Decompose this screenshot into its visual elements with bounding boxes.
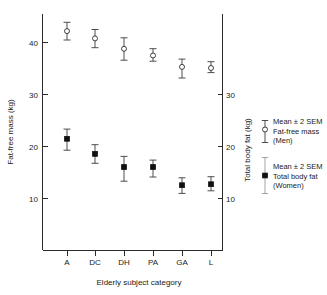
legend-label-2-line3: (Women): [273, 181, 304, 190]
data-point-A: [64, 22, 71, 40]
x-tick-label-GA: GA: [176, 258, 188, 267]
legend-label-1-line1: Mean ± 2 SEM: [273, 117, 323, 126]
data-point-L: [208, 62, 215, 73]
x-tick-label-PA: PA: [148, 258, 159, 267]
x-axis-tick-labels: A DC DH PA GA L: [64, 258, 213, 267]
y-right-axis-title: Total body fat (kg): [243, 118, 252, 182]
data-point-fat-A: [64, 129, 71, 150]
data-point-fat-DH: [121, 156, 128, 181]
series-total-body-fat-women: [64, 129, 215, 193]
legend-entry-fat-free-mass: Mean ± 2 SEM Fat-free mass (Men): [262, 117, 323, 145]
legend-label-2-line2: Total body fat: [273, 172, 319, 181]
data-point-fat-L: [208, 177, 215, 191]
x-tick-label-DC: DC: [89, 258, 101, 267]
data-point-fat-PA: [150, 160, 157, 177]
right-tick-label-30: 30: [226, 91, 235, 100]
x-tick-label-DH: DH: [118, 258, 130, 267]
data-point-fat-DC: [92, 145, 99, 164]
data-point-DC: [92, 30, 99, 48]
x-tick-label-L: L: [209, 258, 214, 267]
y-left-axis-title: Fat-free mass (kg): [6, 99, 15, 165]
left-tick-label-10: 10: [29, 195, 38, 204]
legend-label-2-line1: Mean ± 2 SEM: [273, 162, 323, 171]
data-point-fat-GA: [179, 178, 186, 194]
legend-marker-open-circle: [263, 127, 268, 132]
chart-canvas: 40 30 20 10 30 20 10 A DC DH: [0, 0, 327, 295]
series-fat-free-mass-men: [64, 22, 215, 78]
legend-label-1-line3: (Men): [273, 136, 293, 145]
right-axis-tick-labels: 30 20 10: [226, 91, 235, 204]
legend-entry-total-body-fat: Mean ± 2 SEM Total body fat (Women): [262, 158, 323, 194]
left-tick-label-20: 20: [29, 143, 38, 152]
legend: Mean ± 2 SEM Fat-free mass (Men) Mean ± …: [262, 117, 323, 194]
right-tick-label-10: 10: [226, 195, 235, 204]
x-tick-label-A: A: [64, 258, 70, 267]
x-axis-ticks: [67, 251, 211, 256]
left-tick-label-40: 40: [29, 39, 38, 48]
right-axis-ticks: [218, 95, 223, 199]
figure-container: 40 30 20 10 30 20 10 A DC DH: [0, 0, 327, 295]
data-point-GA: [179, 59, 186, 78]
data-point-PA: [150, 49, 157, 62]
data-point-DH: [121, 38, 128, 60]
right-tick-label-20: 20: [226, 143, 235, 152]
legend-marker-filled-square: [263, 173, 268, 178]
left-axis-tick-labels: 40 30 20 10: [29, 39, 38, 204]
left-tick-label-30: 30: [29, 91, 38, 100]
legend-label-1-line2: Fat-free mass: [273, 127, 320, 136]
x-axis-title: Elderly subject category: [97, 278, 182, 287]
left-axis-ticks: [43, 43, 48, 199]
